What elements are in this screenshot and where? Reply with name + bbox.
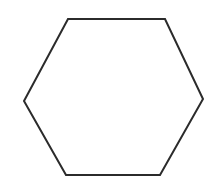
- hexagon-svg: [0, 0, 218, 195]
- canvas-background: [0, 0, 218, 195]
- drawing-canvas: [0, 0, 218, 195]
